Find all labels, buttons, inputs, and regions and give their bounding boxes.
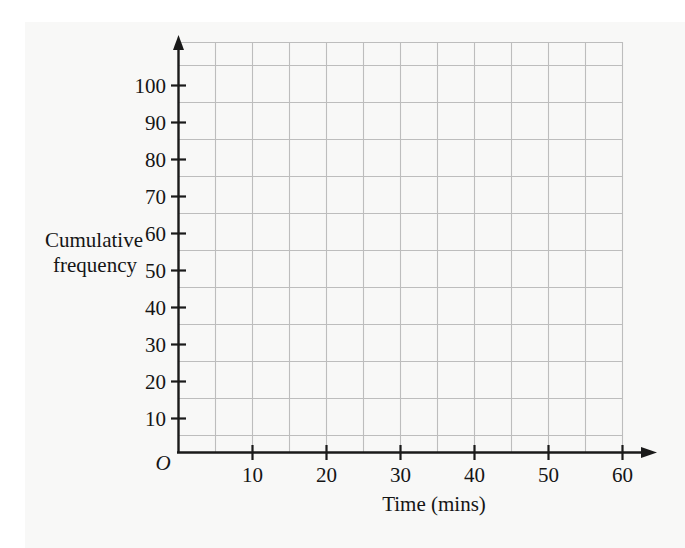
x-tick-label: 30: [390, 463, 411, 487]
x-axis-title: Time (mins): [382, 492, 486, 516]
x-axis-arrowhead: [641, 447, 657, 458]
y-axis-tick-labels: 100 90 80 70 60 50 40 30 20 10: [135, 74, 167, 431]
y-tick-label: 30: [145, 333, 166, 357]
y-axis-title-line-1: Cumulative: [45, 228, 143, 252]
origin-label: O: [155, 451, 170, 475]
y-tick-label: 60: [145, 222, 166, 246]
axis-lines: [177, 46, 648, 453]
x-tick-label: 40: [464, 463, 485, 487]
y-axis-title: Cumulative frequency: [45, 228, 143, 277]
y-tick-label: 90: [145, 111, 166, 135]
x-axis-tick-labels: 10 20 30 40 50 60: [242, 463, 633, 487]
x-tick-label: 10: [242, 463, 263, 487]
y-tick-label: 50: [145, 259, 166, 283]
y-tick-label: 100: [135, 74, 167, 98]
y-tick-label: 10: [145, 407, 166, 431]
grid-vertical-lines: [179, 42, 623, 452]
x-tick-label: 60: [612, 463, 633, 487]
chart-page: 100 90 80 70 60 50 40 30 20 10 10 20 30 …: [0, 0, 685, 548]
y-tick-label: 80: [145, 148, 166, 172]
x-tick-label: 20: [316, 463, 337, 487]
y-tick-label: 40: [145, 296, 166, 320]
y-tick-label: 70: [145, 185, 166, 209]
y-tick-label: 20: [145, 370, 166, 394]
y-axis-title-line-2: frequency: [53, 253, 137, 277]
cumulative-frequency-chart: 100 90 80 70 60 50 40 30 20 10 10 20 30 …: [0, 0, 685, 548]
x-tick-label: 50: [538, 463, 559, 487]
